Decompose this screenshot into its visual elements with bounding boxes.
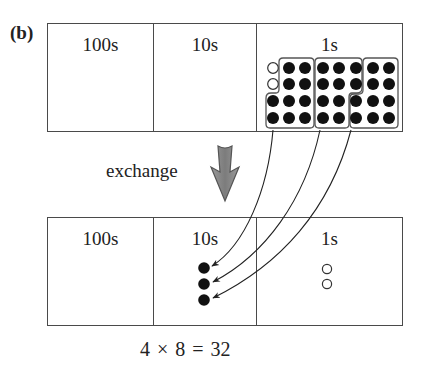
open-counter xyxy=(268,79,279,90)
filled-counter xyxy=(267,95,279,107)
tens-counters xyxy=(198,262,210,306)
filled-counter xyxy=(267,112,279,124)
filled-counter xyxy=(198,294,210,306)
filled-counter xyxy=(198,262,210,274)
equation: 4 × 8 = 32 xyxy=(140,338,231,361)
open-counter xyxy=(322,264,331,273)
exchange-arrow-icon xyxy=(211,146,239,201)
remaining-ones-counters xyxy=(322,264,331,288)
diagram-graphics xyxy=(0,0,428,367)
open-counter xyxy=(268,63,279,74)
filled-counter xyxy=(198,278,210,290)
ones-counters-grid xyxy=(267,62,395,124)
open-counter xyxy=(322,279,331,288)
filled-counters xyxy=(283,62,395,124)
